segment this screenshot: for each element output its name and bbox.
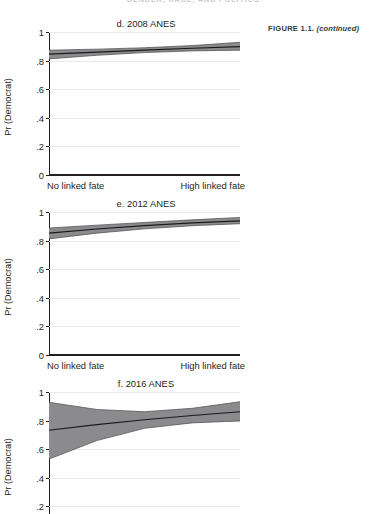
figure-caption: FIGURE 1.1. (continued) bbox=[268, 24, 386, 33]
y-tick-label-1-e: 1 bbox=[39, 207, 44, 218]
y-tick-label-0-e: 0 bbox=[39, 350, 44, 361]
tickmark-0-e bbox=[46, 355, 49, 356]
plot-area-e: 1 .8 .6 .4 .2 0 bbox=[49, 212, 240, 355]
tickmark-0-d bbox=[46, 175, 49, 176]
running-head: GENDER, RACE, AND POLITICS bbox=[0, 0, 386, 5]
chart-panel-f: f. 2016 ANES Pr (Democrat) 1 .8 .6 bbox=[0, 378, 262, 514]
y-tick-label-08-e: .8 bbox=[36, 235, 44, 246]
confidence-band-e bbox=[49, 212, 240, 355]
plot-area-f: 1 .8 .6 .4 .2 bbox=[49, 392, 240, 514]
figure-caption-label: FIGURE 1.1. bbox=[268, 24, 314, 33]
y-tick-label-04-e: .4 bbox=[36, 292, 44, 303]
y-tick-label-02-f: .2 bbox=[36, 501, 44, 512]
figure-caption-continued: (continued) bbox=[317, 24, 359, 33]
y-axis-label-text-f: Pr (Democrat) bbox=[3, 427, 13, 507]
x-axis-label-right-d: High linked fate bbox=[180, 180, 245, 191]
y-tick-label-08-f: .8 bbox=[36, 415, 44, 426]
chart-panel-d: d. 2008 ANES Pr (Democrat) 1 .8 .6 .4 bbox=[0, 18, 262, 194]
y-axis-label-e: Pr (Democrat) bbox=[0, 250, 13, 330]
chart-panel-e: e. 2012 ANES Pr (Democrat) 1 .8 .6 .4 bbox=[0, 198, 262, 374]
y-tick-label-06-e: .6 bbox=[36, 264, 44, 275]
y-tick-label-1-f: 1 bbox=[39, 387, 44, 398]
plot-area-d: 1 .8 .6 .4 .2 0 bbox=[49, 32, 240, 175]
y-tick-label-04-d: .4 bbox=[36, 112, 44, 123]
y-axis-label-f: Pr (Democrat) bbox=[0, 430, 13, 510]
x-axis-labels-e: No linked fate High linked fate bbox=[47, 360, 243, 374]
chart-title-e: e. 2012 ANES bbox=[50, 198, 242, 209]
y-axis-label-text-e: Pr (Democrat) bbox=[3, 247, 13, 327]
x-axis-label-left-d: No linked fate bbox=[47, 180, 104, 191]
y-tick-label-06-f: .6 bbox=[36, 444, 44, 455]
running-head-text: GENDER, RACE, AND POLITICS bbox=[0, 0, 386, 4]
y-axis-label-text-d: Pr (Democrat) bbox=[3, 67, 13, 147]
x-axis-labels-d: No linked fate High linked fate bbox=[47, 180, 243, 194]
y-tick-label-04-f: .4 bbox=[36, 472, 44, 483]
x-axis-label-right-e: High linked fate bbox=[180, 360, 245, 371]
chart-title-d: d. 2008 ANES bbox=[50, 18, 242, 29]
x-axis-label-left-e: No linked fate bbox=[47, 360, 104, 371]
y-tick-label-02-d: .2 bbox=[36, 141, 44, 152]
y-tick-label-02-e: .2 bbox=[36, 321, 44, 332]
chart-title-f: f. 2016 ANES bbox=[50, 378, 242, 389]
ci-polygon-f bbox=[49, 402, 240, 459]
y-tick-label-0-d: 0 bbox=[39, 170, 44, 181]
y-tick-label-1-d: 1 bbox=[39, 27, 44, 38]
y-axis-label-d: Pr (Democrat) bbox=[0, 70, 13, 150]
chart-panel-f-clip: f. 2016 ANES Pr (Democrat) 1 .8 .6 bbox=[0, 378, 262, 514]
y-tick-label-06-d: .6 bbox=[36, 84, 44, 95]
y-tick-label-08-d: .8 bbox=[36, 55, 44, 66]
confidence-band-f bbox=[49, 392, 240, 514]
confidence-band-d bbox=[49, 32, 240, 175]
